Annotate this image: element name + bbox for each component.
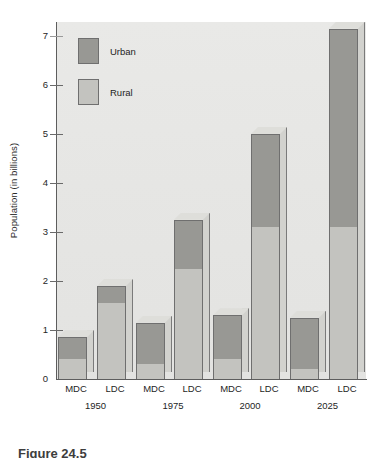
legend-label-urban: Urban: [110, 46, 136, 57]
bar-segment-rural: [214, 359, 241, 379]
bar-1975-MDC: [136, 316, 172, 379]
bar-front-face: [290, 318, 319, 379]
bar-segment-urban: [330, 30, 357, 228]
bar-segment-rural: [137, 364, 164, 379]
x-axis-group-label-2000: 2000: [215, 400, 285, 411]
bar-1950-LDC: [97, 279, 133, 379]
x-axis-category-label: LDC: [252, 383, 286, 394]
legend-swatch-rural-icon: [78, 79, 99, 105]
figure-caption: Figure 24.5: [18, 446, 87, 458]
bar-segment-urban: [175, 221, 202, 270]
y-axis-tick-label: 1: [8, 325, 48, 335]
x-axis-group-label-2025: 2025: [293, 400, 363, 411]
bar-side-face: [319, 311, 326, 372]
y-axis-tick-label: 0: [8, 374, 48, 384]
bar-1950-MDC: [58, 330, 94, 379]
bar-segment-rural: [291, 369, 318, 379]
bar-side-face: [165, 316, 172, 372]
bar-segment-urban: [214, 316, 241, 360]
y-axis-title: Population (in billions): [8, 101, 19, 281]
bar-segment-rural: [98, 303, 125, 379]
y-axis-tick-mark: [50, 36, 63, 37]
bar-segment-rural: [330, 227, 357, 379]
y-axis-tick-mark: [50, 232, 63, 233]
y-axis-tick-label-text: 7: [28, 31, 48, 41]
y-axis-tick-label-text: 5: [28, 129, 48, 139]
x-axis-line: [56, 379, 367, 380]
bar-2000-LDC: [251, 127, 287, 379]
bar-segment-rural: [59, 359, 86, 379]
figure-population-urban-rural: 01234567 Population (in billions) Urban …: [0, 0, 375, 458]
bar-segment-rural: [175, 269, 202, 379]
y-axis-line: [56, 22, 57, 380]
bar-side-face: [203, 213, 210, 372]
bar-front-face: [251, 134, 280, 379]
y-axis-tick-mark: [50, 85, 63, 86]
bar-2000-MDC: [213, 308, 249, 379]
bar-side-face: [280, 127, 287, 372]
bar-segment-urban: [59, 338, 86, 360]
y-axis-tick-mark: [50, 183, 63, 184]
bar-side-face: [358, 22, 365, 372]
bar-segment-urban: [252, 135, 279, 228]
y-axis-tick-mark: [50, 134, 63, 135]
bar-segment-urban: [137, 324, 164, 366]
bar-2025-LDC: [329, 22, 365, 379]
x-axis-category-label: MDC: [291, 383, 325, 394]
bar-segment-rural: [252, 227, 279, 379]
x-axis-group-label-1950: 1950: [61, 400, 131, 411]
y-axis-tick-label-text: 4: [28, 178, 48, 188]
y-axis-tick-label: 6: [8, 80, 48, 90]
x-axis-category-label: MDC: [59, 383, 93, 394]
bar-front-face: [97, 286, 126, 379]
x-axis-category-label: LDC: [98, 383, 132, 394]
bar-front-face: [136, 323, 165, 379]
legend-label-rural: Rural: [110, 87, 133, 98]
x-axis-category-label: LDC: [175, 383, 209, 394]
bar-1975-LDC: [174, 213, 210, 379]
y-axis-tick-label-text: 0: [28, 374, 48, 384]
y-axis-tick-label-text: 1: [28, 325, 48, 335]
bar-front-face: [58, 337, 87, 379]
bar-side-face: [87, 330, 94, 372]
y-axis-tick-mark: [50, 281, 63, 282]
bar-segment-urban: [98, 287, 125, 304]
x-axis-group-label-1975: 1975: [138, 400, 208, 411]
bar-front-face: [329, 29, 358, 379]
y-axis-tick-label-text: 2: [28, 276, 48, 286]
y-axis-tick-label: 7: [8, 31, 48, 41]
y-axis-tick-label-text: 6: [28, 80, 48, 90]
bar-front-face: [174, 220, 203, 379]
legend-swatch-urban-icon: [78, 38, 99, 64]
bar-side-face: [126, 279, 133, 372]
x-axis-category-label: LDC: [330, 383, 364, 394]
x-axis-category-label: MDC: [137, 383, 171, 394]
bar-side-face: [242, 308, 249, 372]
bar-segment-urban: [291, 319, 318, 370]
x-axis-category-label: MDC: [214, 383, 248, 394]
bar-front-face: [213, 315, 242, 379]
y-axis-tick-label-text: 3: [28, 227, 48, 237]
bar-2025-MDC: [290, 311, 326, 379]
